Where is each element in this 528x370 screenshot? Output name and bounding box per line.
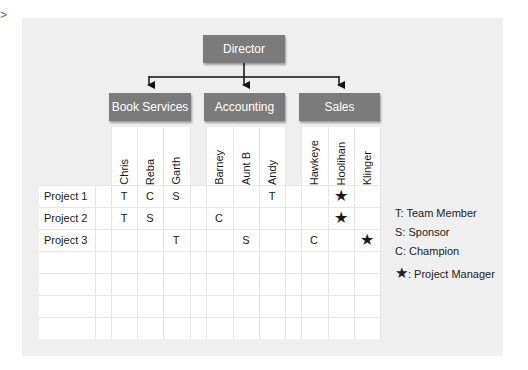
- director-label: Director: [223, 42, 265, 56]
- legend-project-manager: ★: Project Manager: [395, 264, 495, 282]
- cell: [111, 229, 137, 251]
- column-header-label: Andy: [266, 158, 278, 185]
- project-manager-star-icon: ★: [354, 229, 380, 251]
- grid-line: [39, 317, 381, 318]
- legend-team-member: T: Team Member: [395, 207, 477, 219]
- column-header-barney: Barney: [206, 127, 232, 185]
- grid-line: [39, 273, 381, 274]
- legend-champion: C: Champion: [395, 245, 459, 257]
- accounting-box: Accounting: [204, 93, 285, 121]
- cell: [354, 207, 380, 229]
- column-header-chris: Chris: [111, 127, 137, 185]
- cell: T: [259, 185, 285, 207]
- column-header-label: Hoolihan: [335, 140, 347, 185]
- sales-label: Sales: [324, 100, 354, 114]
- cell: S: [163, 185, 189, 207]
- grid-line: [380, 127, 381, 339]
- cell: S: [233, 229, 259, 251]
- cell: [163, 207, 189, 229]
- grid-line: [39, 251, 381, 252]
- column-header-hawkeye: Hawkeye: [301, 127, 327, 185]
- book-services-box: Book Services: [109, 93, 191, 121]
- cell: [328, 229, 354, 251]
- cell: [354, 185, 380, 207]
- column-header-label: Chris: [118, 157, 130, 185]
- legend-sponsor: S: Sponsor: [395, 226, 449, 238]
- book-services-label: Book Services: [112, 100, 189, 114]
- column-header-label: Hawkeye: [308, 138, 320, 185]
- grid-line: [95, 185, 96, 339]
- column-header-andy: Andy: [259, 127, 285, 185]
- column-header-label: Reba: [144, 157, 156, 185]
- cell: C: [301, 229, 327, 251]
- row-label-project-1: Project 1: [44, 185, 87, 207]
- grid-line: [190, 127, 191, 339]
- cell: C: [137, 185, 163, 207]
- column-header-label: Klinger: [361, 149, 373, 185]
- row-label-project-2: Project 2: [44, 207, 87, 229]
- legend-project-manager-label: : Project Manager: [408, 268, 495, 280]
- cell: T: [111, 207, 137, 229]
- cell: [233, 185, 259, 207]
- cell: [259, 207, 285, 229]
- cell: T: [111, 185, 137, 207]
- column-header-garth: Garth: [163, 127, 189, 185]
- cell: C: [206, 207, 232, 229]
- cell: [206, 229, 232, 251]
- grid-line: [39, 295, 381, 296]
- project-manager-star-icon: ★: [328, 207, 354, 229]
- director-box: Director: [203, 35, 285, 63]
- column-header-reba: Reba: [137, 127, 163, 185]
- column-header-label: Aunt B: [240, 150, 252, 185]
- column-header-aunt-b: Aunt B: [233, 127, 259, 185]
- star-icon: ★: [395, 264, 408, 281]
- cell: [301, 207, 327, 229]
- cell: [206, 185, 232, 207]
- column-header-hoolihan: Hoolihan: [328, 127, 354, 185]
- cell: [233, 207, 259, 229]
- grid-line: [285, 127, 286, 339]
- row-label-project-3: Project 3: [44, 229, 87, 251]
- cell: [259, 229, 285, 251]
- sales-box: Sales: [299, 93, 380, 121]
- cell: [137, 229, 163, 251]
- project-manager-star-icon: ★: [328, 185, 354, 207]
- column-header-label: Barney: [213, 148, 225, 185]
- column-header-label: Garth: [170, 155, 182, 185]
- cell: S: [137, 207, 163, 229]
- cell: [301, 185, 327, 207]
- accounting-label: Accounting: [215, 100, 274, 114]
- cell: T: [163, 229, 189, 251]
- column-header-klinger: Klinger: [354, 127, 380, 185]
